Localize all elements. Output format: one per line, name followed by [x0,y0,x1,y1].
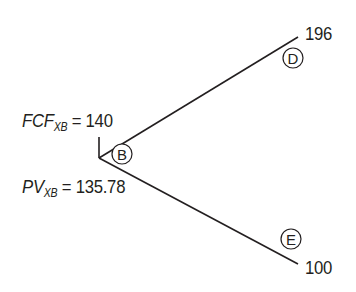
fcf-subscript: XB [54,120,68,134]
pv-value: 135.78 [76,176,126,197]
tree-lines: B D E [0,0,356,292]
branch-up [99,37,298,158]
node-e-circle: E [281,229,301,249]
fcf-symbol: FCF [22,110,54,131]
down-value: 100 [305,258,332,277]
node-b-circle: B [112,144,132,164]
up-value: 196 [305,24,332,43]
fcf-label: FCFXB = 140 [22,111,113,130]
pv-subscript: XB [44,186,58,200]
node-d-circle: D [283,48,303,68]
pv-label: PVXB = 135.78 [22,177,125,196]
svg-text:E: E [286,231,296,248]
svg-text:B: B [117,146,127,163]
svg-text:D: D [288,50,299,67]
pv-symbol: PV [22,176,44,197]
fcf-value: 140 [86,110,113,131]
branch-down [99,158,298,264]
